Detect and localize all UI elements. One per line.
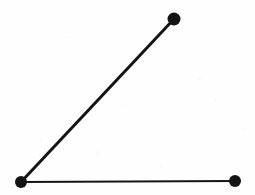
- upper-endpoint-dot: [168, 13, 181, 26]
- vertex-point-dot: [15, 176, 27, 188]
- right-endpoint-dot: [229, 175, 241, 187]
- angle-figure: [0, 0, 255, 195]
- angle-diagram-canvas: [0, 0, 255, 195]
- horizontal-ray-segment: [21, 181, 235, 182]
